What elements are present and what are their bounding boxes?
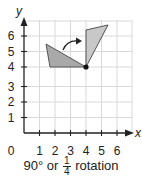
y-tick-label: 2 (8, 95, 15, 109)
fraction: 14 (63, 156, 71, 177)
caption-suffix: rotation (72, 158, 119, 173)
original-triangle (46, 44, 86, 67)
rotated-triangle (86, 25, 108, 67)
fraction-denominator: 4 (63, 167, 71, 177)
rotation-center-point (83, 64, 88, 69)
x-tick-label: 4 (83, 144, 90, 155)
y-tick-label: 1 (8, 111, 15, 125)
caption-prefix: 90° or (24, 158, 62, 173)
x-tick-label: 2 (52, 144, 59, 155)
y-tick-label: 6 (8, 29, 15, 43)
y-tick-label: 3 (8, 80, 15, 94)
x-tick-label: 3 (67, 144, 74, 155)
x-axis-label: x (134, 126, 142, 140)
y-tick-label: 5 (8, 45, 15, 59)
origin-label: 0 (8, 144, 15, 155)
y-axis-label: y (15, 4, 23, 18)
x-axis-arrow-icon (125, 130, 134, 137)
x-tick-label: 1 (36, 144, 43, 155)
coordinate-grid: y x 0 1 2 3 4 5 6 1 2 3 4 5 6 (0, 0, 142, 155)
x-tick-label: 6 (114, 144, 121, 155)
x-tick-label: 5 (98, 144, 105, 155)
grid-lines (24, 20, 132, 133)
y-tick-label: 4 (8, 60, 15, 74)
rotation-caption: 90° or 14 rotation (0, 156, 142, 177)
rotation-arrowhead-icon (76, 38, 82, 45)
